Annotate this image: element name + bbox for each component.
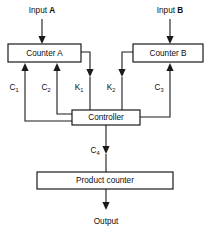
input-a-arrow (38, 19, 45, 44)
input-b-label: Input B (157, 6, 184, 15)
signal-path-k1 (81, 52, 94, 110)
counter-a-label: Counter A (26, 49, 63, 58)
signal-path-k2 (118, 52, 133, 110)
signal-label-c3: C3 (154, 83, 163, 93)
controller-block[interactable]: Controller (72, 110, 140, 125)
counter-a-block[interactable]: Counter A (8, 44, 81, 62)
input-a-label: Input A (29, 6, 56, 15)
counter-b-block[interactable]: Counter B (133, 44, 203, 62)
input-b-arrow (166, 19, 173, 44)
output-arrow (102, 189, 109, 210)
output-label: Output (94, 217, 119, 226)
signal-label-c4: C4 (90, 146, 99, 156)
signal-label-k1: K1 (75, 83, 84, 93)
signal-path-c2 (53, 63, 72, 114)
counter-b-label: Counter B (150, 49, 187, 58)
signal-label-k2: K2 (107, 83, 116, 93)
signal-label-c2: C2 (41, 83, 50, 93)
product-counter-label: Product counter (76, 176, 134, 185)
block-diagram: Counter A Counter B (0, 0, 208, 227)
signal-path-c4 (102, 125, 109, 172)
product-counter-block[interactable]: Product counter (37, 172, 173, 189)
signal-label-c1: C1 (9, 83, 18, 93)
diagram-canvas: Counter A Counter B (0, 0, 208, 227)
controller-label: Controller (88, 113, 124, 122)
